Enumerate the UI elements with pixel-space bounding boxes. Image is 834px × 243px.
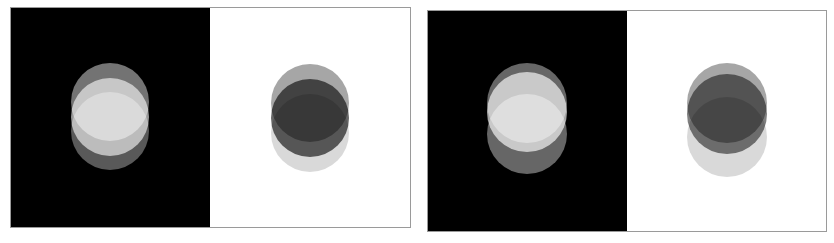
white-panel: [627, 10, 827, 232]
bottom-circle: [271, 94, 349, 172]
bottom-circle: [487, 94, 567, 174]
figure-right: [427, 10, 827, 232]
bottom-circle: [687, 97, 767, 177]
figure-canvas: [10, 7, 411, 228]
bottom-circle: [71, 92, 149, 170]
figure-left: [10, 7, 411, 228]
black-panel: [10, 7, 210, 228]
figure-canvas: [427, 10, 827, 232]
white-panel: [210, 7, 411, 228]
black-panel: [427, 10, 627, 232]
